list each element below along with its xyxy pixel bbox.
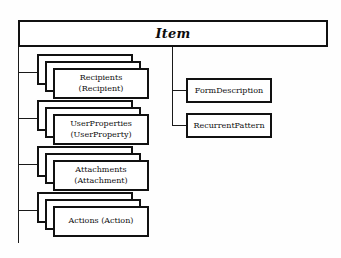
- label-line-2: (Recipient): [79, 84, 124, 93]
- stack-layer-front[interactable]: Actions (Action): [53, 206, 149, 237]
- label-line-1: Attachments: [75, 165, 126, 174]
- class-stack-recipients[interactable]: Recipients (Recipient): [37, 54, 149, 99]
- class-box-formdescription[interactable]: FormDescription: [186, 78, 272, 103]
- class-box-formdescription-label: FormDescription: [195, 86, 263, 95]
- class-stack-actions-label: Actions (Action): [67, 216, 136, 226]
- class-box-recurrentpattern[interactable]: RecurrentPattern: [186, 113, 272, 138]
- class-stack-attachments-label: Attachments (Attachment): [72, 165, 129, 186]
- composition-stub-formdescription: [172, 90, 186, 91]
- label-line-1: UserProperties: [70, 119, 132, 128]
- stack-layer-front[interactable]: Recipients (Recipient): [53, 68, 149, 99]
- composition-trunk-right: [172, 47, 173, 125]
- class-box-recurrentpattern-label: RecurrentPattern: [193, 121, 264, 130]
- label-line-2: (UserProperty): [70, 130, 131, 139]
- label-line-2: (Attachment): [74, 176, 127, 185]
- class-stack-recipients-label: Recipients (Recipient): [77, 73, 126, 94]
- class-stack-userproperties-label: UserProperties (UserProperty): [68, 119, 134, 140]
- label-line-1: Recipients: [80, 73, 123, 82]
- class-stack-userproperties[interactable]: UserProperties (UserProperty): [37, 100, 149, 145]
- class-box-item-label: Item: [156, 26, 191, 41]
- diagram-canvas: Item Recipients (Recipient) UserProperti…: [0, 0, 341, 258]
- stack-layer-front[interactable]: Attachments (Attachment): [53, 160, 149, 191]
- class-box-item[interactable]: Item: [18, 20, 328, 47]
- stack-layer-front[interactable]: UserProperties (UserProperty): [53, 114, 149, 145]
- composition-stub-recurrentpattern: [172, 125, 186, 126]
- composition-trunk-left: [18, 47, 19, 243]
- class-stack-actions[interactable]: Actions (Action): [37, 192, 149, 237]
- class-stack-attachments[interactable]: Attachments (Attachment): [37, 146, 149, 191]
